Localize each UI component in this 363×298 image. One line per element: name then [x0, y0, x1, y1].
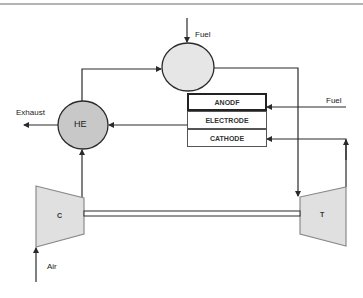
air-label: Air [47, 262, 57, 271]
combustor-node [162, 43, 214, 91]
cathode-layer: CATHODE [187, 129, 267, 147]
electrode-layer: ELECTRODE [187, 111, 267, 129]
compressor-label: C [57, 212, 62, 219]
turbine-label: T [320, 211, 324, 218]
anode-layer: ANODF [187, 93, 267, 111]
shaft [84, 211, 300, 216]
he-to-combustor-pipe [82, 69, 161, 101]
anode-label: ANODF [215, 99, 240, 106]
electrode-label: ELECTRODE [205, 117, 248, 124]
exhaust-label: Exhaust [16, 108, 45, 117]
fuel-top-label: Fuel [195, 30, 211, 39]
flow-diagram [0, 0, 363, 298]
cathode-label: CATHODE [210, 135, 244, 142]
he-label: HE [74, 119, 87, 129]
fuel-right-label: Fuel [326, 96, 342, 105]
turbine-to-cathode-pipe [267, 139, 346, 187]
